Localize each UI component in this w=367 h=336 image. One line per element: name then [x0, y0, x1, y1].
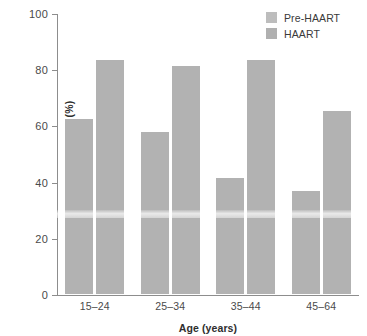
x-axis-title: Age (years) — [57, 322, 359, 334]
bar — [246, 59, 276, 295]
bar — [95, 59, 125, 295]
x-axis-tick-label: 15–24 — [64, 300, 125, 312]
bar-chart: 10-Year Survival Rates (%) 020406080100 … — [0, 0, 367, 336]
x-axis-tick-label: 45–64 — [291, 300, 352, 312]
y-axis-tick — [52, 126, 57, 127]
y-axis-line — [57, 14, 58, 296]
x-axis-tick-label: 25–34 — [140, 300, 201, 312]
bar — [215, 177, 245, 295]
legend-label-haart: HAART — [284, 28, 320, 40]
legend: Pre-HAART HAART — [265, 10, 360, 42]
legend-swatch-pre-haart — [265, 11, 278, 24]
bar-group-35-44 — [215, 14, 276, 295]
bar — [291, 190, 321, 295]
bar — [140, 131, 170, 295]
bar — [171, 65, 201, 295]
y-axis-tick-label: 0 — [42, 289, 48, 301]
x-axis-tick-label: 35–44 — [215, 300, 276, 312]
y-axis-tick — [52, 183, 57, 184]
legend-label-pre-haart: Pre-HAART — [284, 12, 340, 24]
y-axis-tick-label: 40 — [35, 177, 48, 189]
legend-item: Pre-HAART — [265, 10, 360, 25]
y-axis-tick-label: 100 — [29, 8, 48, 20]
y-axis-tick — [52, 295, 57, 296]
plot-area: 020406080100 — [57, 14, 359, 296]
y-axis-tick — [52, 239, 57, 240]
y-axis-tick-label: 80 — [35, 64, 48, 76]
x-axis-line — [57, 295, 359, 296]
legend-item: HAART — [265, 26, 360, 41]
y-axis-tick-label: 60 — [35, 120, 48, 132]
bar — [64, 118, 94, 295]
bar-group-15-24 — [64, 14, 125, 295]
bar-group-45-64 — [291, 14, 352, 295]
bar — [322, 110, 352, 295]
y-axis-tick — [52, 70, 57, 71]
y-axis-tick — [52, 14, 57, 15]
bar-group-25-34 — [140, 14, 201, 295]
y-axis-tick-label: 20 — [35, 233, 48, 245]
legend-swatch-haart — [265, 27, 278, 40]
